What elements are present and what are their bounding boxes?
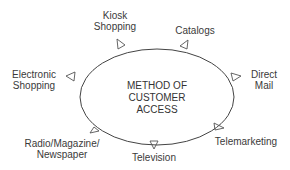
node-direct-mail: Direct Mail xyxy=(244,69,284,91)
node-television: Television xyxy=(124,152,184,163)
arrow-telemarketing-icon xyxy=(214,123,224,130)
node-electronic-line-1: Electronic xyxy=(6,69,62,80)
node-radio-line-1: Radio/Magazine/ xyxy=(22,138,102,149)
node-kiosk-line-2: Shopping xyxy=(90,21,140,32)
node-catalogs: Catalogs xyxy=(170,25,220,36)
node-radio-line-2: Newspaper xyxy=(22,149,102,160)
center-line-1: METHOD OF xyxy=(127,80,187,92)
node-catalogs-line-1: Catalogs xyxy=(170,25,220,36)
node-direct-mail-line-2: Mail xyxy=(244,80,284,91)
node-telemarketing-line-1: Telemarketing xyxy=(206,136,286,147)
node-kiosk-shopping: Kiosk Shopping xyxy=(90,10,140,32)
center-line-2: CUSTOMER xyxy=(127,92,187,104)
node-electronic-shopping: Electronic Shopping xyxy=(6,69,62,91)
node-kiosk-line-1: Kiosk xyxy=(90,10,140,21)
arrow-electronic-icon xyxy=(66,72,75,81)
node-radio-magazine-newspaper: Radio/Magazine/ Newspaper xyxy=(22,138,102,160)
arrow-direct-mail-icon xyxy=(231,73,241,81)
node-electronic-line-2: Shopping xyxy=(6,80,62,91)
arrow-kiosk-icon xyxy=(117,39,125,49)
center-line-3: ACCESS xyxy=(127,104,187,116)
center-label: METHOD OF CUSTOMER ACCESS xyxy=(127,80,187,116)
node-television-line-1: Television xyxy=(124,152,184,163)
node-direct-mail-line-1: Direct xyxy=(244,69,284,80)
node-telemarketing: Telemarketing xyxy=(206,136,286,147)
arrow-catalogs-icon xyxy=(180,40,188,49)
